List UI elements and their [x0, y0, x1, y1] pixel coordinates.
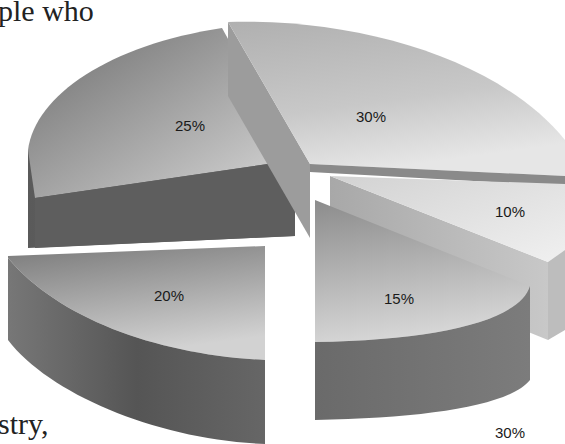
slice-label-15: 15%: [384, 290, 414, 307]
slice-label-20: 20%: [154, 287, 184, 304]
pie-chart: [0, 0, 565, 444]
slice-label-10: 10%: [495, 203, 525, 220]
slice-label-25: 25%: [175, 117, 205, 134]
stray-percent-label: 30%: [495, 424, 525, 441]
body-text-fragment-top: ple who: [0, 0, 94, 28]
slice-label-30: 30%: [356, 108, 386, 125]
body-text-fragment-bottom: stry,: [0, 407, 49, 441]
